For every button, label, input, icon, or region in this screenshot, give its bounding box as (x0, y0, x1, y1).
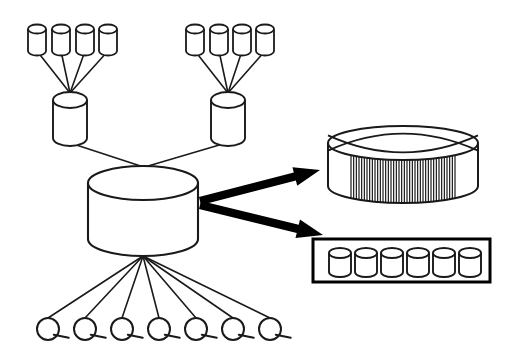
cylinder-array-box-cylinder-2-top (381, 248, 403, 258)
top-left-source-cylinders-1-top (52, 25, 70, 34)
mid-cylinder-right (211, 92, 245, 146)
query-node-circle-0 (37, 318, 59, 340)
edge-center-to-query-node (48, 256, 143, 318)
top-right-source-cylinders-1-top (210, 25, 228, 34)
query-node-circle-6 (259, 318, 281, 340)
cylinder-array-box-cylinder-5-top (459, 248, 481, 258)
top-left-source-cylinders-3-top (99, 25, 117, 34)
mid-cylinder-left-top (53, 92, 87, 108)
edge-center-to-query-node (122, 256, 143, 318)
top-left-source-cylinders (28, 25, 117, 56)
top-left-source-cylinders-0-top (28, 25, 46, 34)
query-node-circle-3 (148, 318, 170, 340)
cylinder-array-box-cylinder-1-top (355, 248, 377, 258)
cylinder-array-box-cylinder-4-top (433, 248, 455, 258)
query-node-circle-2 (111, 318, 133, 340)
edge-source-to-mid-cylinder-right (228, 51, 265, 93)
mid-cylinder-right-top (211, 92, 245, 108)
mid-cylinder-left (53, 92, 87, 146)
striped-cube-disk-top (328, 126, 478, 160)
arrow-to-cylinder-box (199, 201, 323, 238)
cylinder-array-box (313, 239, 490, 282)
top-right-source-cylinders (186, 25, 274, 56)
query-node-circle-4 (185, 318, 207, 340)
top-right-source-cylinders-2-top (233, 25, 251, 34)
striped-cube-disk (328, 126, 478, 203)
top-right-source-cylinders-3-top (256, 25, 274, 34)
top-right-source-cylinders-0-top (186, 25, 204, 34)
diagram-canvas (0, 0, 508, 363)
edge-source-to-mid-cylinder-right (228, 51, 242, 93)
central-warehouse-cylinder-top (88, 166, 198, 200)
source-to-mid-edges (37, 51, 265, 93)
query-client-nodes (37, 318, 291, 340)
edge-center-to-query-node (85, 256, 143, 318)
query-node-circle-5 (222, 318, 244, 340)
top-left-source-cylinders-2-top (76, 25, 94, 34)
cylinder-array-box-cylinder-0-top (329, 248, 351, 258)
diagram-illustration (0, 0, 508, 363)
edge-source-to-mid-cylinder-left (70, 51, 85, 93)
center-to-leaf-edges (48, 256, 270, 318)
query-node-circle-1 (74, 318, 96, 340)
cylinder-array-box-cylinder-3-top (407, 248, 429, 258)
edge-center-to-query-node (143, 256, 270, 318)
arrow-to-striped-disk (199, 167, 320, 205)
output-arrows (199, 167, 323, 238)
edge-source-to-mid-cylinder-left (70, 51, 108, 93)
central-warehouse-cylinder (88, 166, 198, 256)
